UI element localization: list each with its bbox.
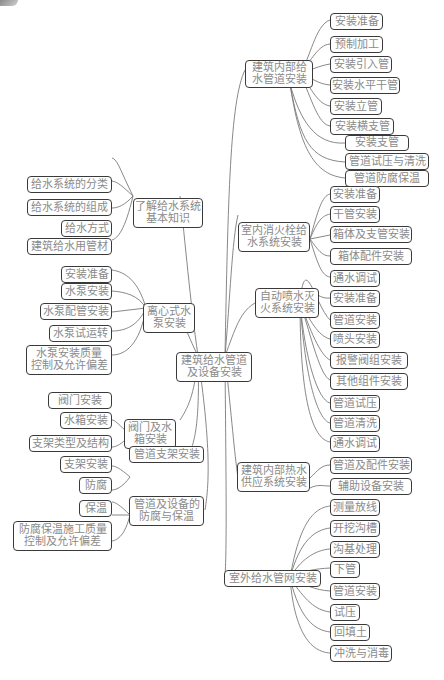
leaf-node[interactable]: 给水系统的分类 — [27, 176, 112, 193]
leaf-node[interactable]: 水泵安装质量控制及允许偏差 — [26, 345, 112, 375]
leaf-label: 沟基处理 — [333, 544, 377, 556]
leaf-label: 安装立管 — [334, 101, 378, 113]
leaf-node[interactable]: 给水系统的组成 — [27, 199, 112, 216]
leaf-node[interactable]: 其他组件安装 — [330, 373, 408, 390]
leaf-node[interactable]: 安装引入管 — [330, 56, 392, 73]
branch-fire-hydrant[interactable]: 室内消火栓给水系统安装 — [238, 222, 310, 252]
leaf-label: 喷头安装 — [333, 334, 377, 346]
leaf-node[interactable]: 阀门安装 — [48, 392, 112, 409]
leaf-label: 试压 — [334, 607, 356, 619]
leaf-node[interactable]: 通水调试 — [330, 435, 380, 452]
leaf-label: 管道安装 — [333, 315, 377, 327]
leaf-node[interactable]: 管道清洗 — [330, 415, 380, 432]
leaf-node[interactable]: 水泵安装 — [61, 283, 112, 300]
leaf-label: 安装支管 — [355, 137, 399, 149]
leaf-node[interactable]: 管道防腐保温 — [345, 170, 429, 187]
leaf-node[interactable]: 干管安装 — [330, 206, 380, 223]
leaf-node[interactable]: 预制加工 — [330, 36, 383, 53]
leaf-node[interactable]: 安装准备 — [330, 186, 380, 203]
leaf-node[interactable]: 试压 — [330, 604, 360, 621]
leaf-label: 箱体配件安装 — [338, 251, 404, 263]
leaf-label: 安装水平干管 — [332, 80, 398, 92]
leaf-node[interactable]: 箱体配件安装 — [330, 248, 412, 265]
branch-label: 室外给水管网安装 — [229, 573, 317, 585]
leaf-label: 安装引入管 — [334, 59, 389, 71]
branch-label: 水系统安装 — [241, 237, 307, 249]
leaf-label: 冲洗与消毒 — [334, 648, 389, 660]
leaf-label: 水泵试运转 — [53, 328, 108, 340]
leaf-node[interactable]: 管道安装 — [330, 312, 380, 329]
leaf-node[interactable]: 开挖沟槽 — [330, 520, 380, 537]
leaf-node[interactable]: 防腐保温施工质量控制及允许偏差 — [13, 521, 112, 551]
leaf-label: 水泵配管安装 — [43, 306, 109, 318]
branch-valve-tank[interactable]: 阀门及水箱安装 — [124, 419, 176, 449]
leaf-node[interactable]: 管道试压与清洗 — [345, 153, 429, 170]
leaf-node[interactable]: 回填土 — [330, 624, 370, 641]
branch-anticorrosion-insulation[interactable]: 管道及设备的防腐与保温 — [129, 496, 204, 526]
leaf-label: 安装准备 — [335, 16, 379, 28]
branch-label: 防腐与保温 — [134, 511, 200, 523]
leaf-label: 管道试压 — [333, 398, 377, 410]
leaf-label: 给水方式 — [65, 223, 109, 235]
leaf-node[interactable]: 支架类型及结构 — [29, 435, 112, 452]
leaf-node[interactable]: 辅助设备安装 — [330, 478, 412, 495]
branch-pipe-support[interactable]: 管道支架安装 — [129, 446, 204, 463]
leaf-node[interactable]: 支架安装 — [60, 456, 112, 473]
branch-sprinkler-system[interactable]: 自动喷水灭火系统安装 — [255, 288, 319, 318]
branch-outdoor-water-network[interactable]: 室外给水管网安装 — [224, 570, 321, 587]
leaf-label: 管道防腐保温 — [354, 173, 420, 185]
branch-label: 水管道安装 — [252, 74, 307, 86]
leaf-node[interactable]: 管道安装 — [330, 583, 380, 600]
leaf-label: 支架类型及结构 — [32, 438, 109, 450]
branch-water-system-basics[interactable]: 了解给水系统基本知识 — [133, 198, 203, 228]
leaf-node[interactable]: 安装准备 — [330, 290, 380, 307]
leaf-node[interactable]: 通水调试 — [330, 270, 380, 287]
leaf-node[interactable]: 报警阀组安装 — [330, 352, 408, 369]
leaf-node[interactable]: 下管 — [330, 561, 360, 578]
branch-label: 箱安装 — [128, 434, 172, 446]
leaf-label: 管道试压与清洗 — [349, 156, 426, 168]
leaf-label: 防腐 — [85, 480, 107, 492]
branch-label: 泵安装 — [147, 318, 191, 330]
leaf-node[interactable]: 安装立管 — [330, 98, 382, 115]
branch-centrifugal-pump[interactable]: 离心式水泵安装 — [143, 303, 195, 333]
leaf-label: 下管 — [334, 564, 356, 576]
leaf-label: 安装准备 — [333, 293, 377, 305]
leaf-node[interactable]: 沟基处理 — [330, 541, 380, 558]
leaf-node[interactable]: 测量放线 — [330, 499, 380, 516]
leaf-node[interactable]: 安装水平干管 — [330, 77, 400, 94]
leaf-label: 安装准备 — [65, 269, 109, 281]
leaf-label: 其他组件安装 — [336, 376, 402, 388]
leaf-label: 水泵安装 — [65, 286, 109, 298]
leaf-label: 管道清洗 — [333, 418, 377, 430]
branch-building-water-pipe[interactable]: 建筑内部给水管道安装 — [245, 60, 313, 88]
leaf-node[interactable]: 冲洗与消毒 — [330, 645, 392, 662]
leaf-node[interactable]: 建筑给水用管材 — [27, 238, 112, 255]
leaf-node[interactable]: 水泵配管安装 — [40, 303, 112, 320]
branch-label: 供应系统安装 — [241, 477, 307, 489]
leaf-label: 辅助设备安装 — [338, 481, 404, 493]
leaf-node[interactable]: 水泵试运转 — [49, 325, 112, 342]
leaf-label: 通水调试 — [333, 438, 377, 450]
branch-label: 基本知识 — [135, 213, 201, 225]
leaf-node[interactable]: 安装准备 — [61, 266, 112, 283]
leaf-label: 管道安装 — [333, 586, 377, 598]
leaf-node[interactable]: 安装支管 — [345, 135, 409, 151]
leaf-node[interactable]: 保温 — [79, 500, 112, 517]
leaf-node[interactable]: 安装准备 — [330, 13, 383, 30]
leaf-label: 支架安装 — [64, 459, 108, 471]
leaf-node[interactable]: 水箱安装 — [60, 412, 112, 429]
root-node[interactable]: 建筑给水管道及设备安装 — [176, 352, 252, 382]
leaf-node[interactable]: 安装横支管 — [330, 118, 394, 135]
mind-map: 建筑给水管道及设备安装 建筑内部给水管道安装 安装准备 预制加工 安装引入管 安… — [0, 0, 444, 680]
leaf-node[interactable]: 给水方式 — [61, 220, 112, 237]
leaf-label: 通水调试 — [333, 273, 377, 285]
branch-hot-water-supply[interactable]: 建筑内部热水供应系统安装 — [237, 462, 310, 492]
leaf-node[interactable]: 防腐 — [79, 477, 112, 494]
leaf-node[interactable]: 管道试压 — [330, 395, 380, 412]
leaf-node[interactable]: 箱体及支管安装 — [330, 226, 412, 243]
leaf-node[interactable]: 管道及配件安装 — [330, 457, 412, 474]
branch-label: 管道支架安装 — [134, 449, 200, 461]
branch-label: 火系统安装 — [260, 303, 315, 315]
leaf-node[interactable]: 喷头安装 — [330, 331, 380, 348]
